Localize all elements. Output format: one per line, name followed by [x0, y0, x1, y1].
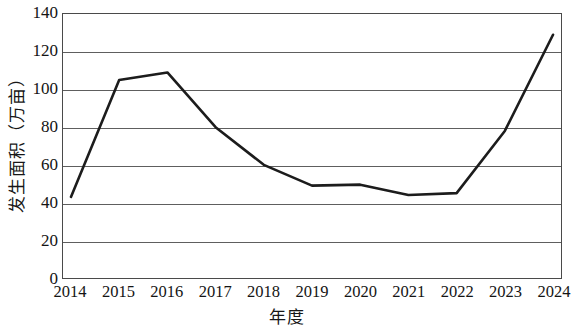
y-tick-label: 40	[18, 194, 58, 211]
y-tick-label: 80	[18, 118, 58, 135]
line-chart-figure: 发生面积（万亩） 020406080100120140 201420152016…	[0, 0, 573, 329]
x-axis-title-label: 年度	[269, 307, 305, 327]
y-axis-tick-labels: 020406080100120140	[18, 0, 58, 290]
x-tick-label: 2024	[526, 282, 573, 301]
data-series-line	[71, 35, 553, 197]
y-tick-label: 60	[18, 156, 58, 173]
series-line-chart	[63, 14, 561, 278]
x-axis-title: 年度	[0, 303, 573, 328]
y-tick-label: 140	[18, 4, 58, 21]
y-tick-label: 120	[18, 42, 58, 59]
y-tick-label: 20	[18, 232, 58, 249]
y-tick-label: 100	[18, 80, 58, 97]
plot-area	[62, 13, 562, 279]
